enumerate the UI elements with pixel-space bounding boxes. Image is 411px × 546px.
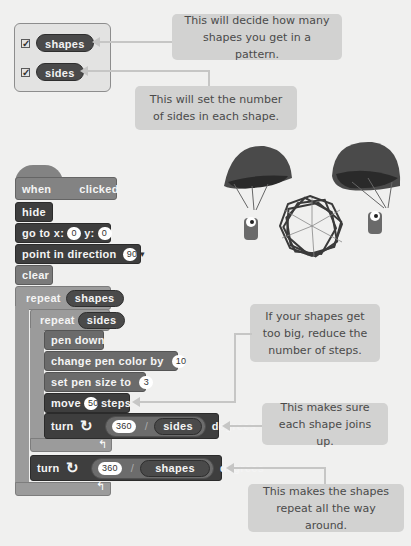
turn-clockwise-icon: ↻ xyxy=(80,417,93,435)
turn-sides-block[interactable]: turn ↻ 360 / sides degrees xyxy=(44,413,219,439)
arrow-head-icon xyxy=(226,463,234,473)
hide-label: hide xyxy=(22,206,46,218)
repeat-label: repeat xyxy=(40,314,75,326)
callout-joins: This makes sure each shape joins up. xyxy=(262,403,388,445)
connector-line xyxy=(208,70,210,86)
when-label: when xyxy=(22,183,51,195)
variables-palette: ✓ shapes ✓ sides xyxy=(14,23,111,92)
pen-size-input[interactable]: 3 xyxy=(139,376,153,389)
turn-shapes-block[interactable]: turn ↻ 360 / shapes degrees xyxy=(30,455,222,481)
divide-numerator-input[interactable]: 360 xyxy=(98,462,122,475)
repeat-sides-input[interactable]: sides xyxy=(78,312,126,329)
loop-arrow-icon: ↰ xyxy=(98,438,107,451)
turn-clockwise-icon: ↻ xyxy=(66,459,79,477)
pen-down-label: pen down xyxy=(51,334,105,346)
callout-steps: If your shapes get too big, reduce the n… xyxy=(250,304,380,362)
y-input[interactable]: 0 xyxy=(98,227,112,240)
callout-sides-count: This will set the number of sides in eac… xyxy=(135,86,297,130)
callout-shapes-count: This will decide how many shapes you get… xyxy=(172,14,342,60)
divide-sign: / xyxy=(145,420,148,432)
loop-arrow-icon: ↰ xyxy=(96,480,105,493)
repeat-shapes-header: repeat shapes xyxy=(20,288,130,308)
connector-line xyxy=(140,401,236,403)
pen-down-block[interactable]: pen down xyxy=(44,330,104,350)
divide-operator[interactable]: 360 / sides xyxy=(105,416,206,437)
pen-color-input[interactable]: 10 xyxy=(172,355,186,368)
connector-line xyxy=(100,41,172,43)
connector-line xyxy=(88,70,210,72)
arrow-head-icon xyxy=(80,66,88,76)
repeat-sides-header: repeat sides xyxy=(34,310,131,330)
variable-row-shapes: ✓ shapes xyxy=(21,34,94,52)
connector-line xyxy=(236,333,252,335)
reporter-sides[interactable]: sides xyxy=(36,63,84,81)
direction-value: 90 xyxy=(127,249,138,259)
arrow-head-icon xyxy=(92,37,100,47)
when-flag-clicked-block[interactable]: when clicked xyxy=(15,177,117,200)
move-steps-block[interactable]: move 50 steps xyxy=(44,393,130,413)
hide-block[interactable]: hide xyxy=(15,202,53,222)
clear-label: clear xyxy=(22,269,49,281)
clicked-label: clicked xyxy=(79,183,118,195)
turn-label: turn xyxy=(51,420,74,432)
direction-dropdown[interactable]: 90 ▾ xyxy=(123,248,137,261)
point-in-direction-block[interactable]: point in direction 90 ▾ xyxy=(15,244,141,264)
variable-row-sides: ✓ sides xyxy=(21,63,84,81)
y-label: y: xyxy=(84,227,94,239)
repeat-label: repeat xyxy=(26,292,61,304)
x-input[interactable]: 0 xyxy=(67,227,81,240)
connector-line xyxy=(230,425,262,427)
divide-operator[interactable]: 360 / shapes xyxy=(91,458,214,479)
point-label: point in direction xyxy=(22,248,117,260)
turn-label: turn xyxy=(37,462,60,474)
arrow-head-icon xyxy=(222,421,230,431)
change-pen-color-block[interactable]: change pen color by 10 xyxy=(44,351,178,371)
move-steps-input[interactable]: 50 xyxy=(84,397,98,410)
divide-shapes-reporter[interactable]: shapes xyxy=(140,460,210,477)
repeat-shapes-input[interactable]: shapes xyxy=(66,290,124,307)
pen-size-label: set pen size to xyxy=(51,376,131,388)
set-pen-size-block[interactable]: set pen size to 3 xyxy=(44,372,146,392)
checkbox-sides[interactable]: ✓ xyxy=(21,68,30,77)
divide-sides-reporter[interactable]: sides xyxy=(154,418,202,435)
go-to-xy-block[interactable]: go to x: 0 y: 0 xyxy=(15,223,111,243)
divide-numerator-input[interactable]: 360 xyxy=(112,420,136,433)
callout-around: This makes the shapes repeat all the way… xyxy=(248,484,404,532)
checkbox-shapes[interactable]: ✓ xyxy=(21,39,30,48)
steps-label: steps xyxy=(101,397,131,409)
divide-sign: / xyxy=(131,462,134,474)
reporter-shapes[interactable]: shapes xyxy=(36,34,94,52)
illustration-parachute-cats xyxy=(222,138,411,278)
arrow-head-icon xyxy=(132,397,140,407)
connector-line xyxy=(234,333,236,403)
parachute-spiral-icon xyxy=(222,138,411,278)
change-pen-label: change pen color by xyxy=(51,355,164,367)
clear-block[interactable]: clear xyxy=(15,265,53,285)
move-label: move xyxy=(51,397,81,409)
connector-line xyxy=(234,467,326,469)
go-to-label: go to x: xyxy=(22,227,64,239)
repeat-shapes-arm xyxy=(15,306,29,486)
repeat-sides-arm xyxy=(30,328,44,440)
